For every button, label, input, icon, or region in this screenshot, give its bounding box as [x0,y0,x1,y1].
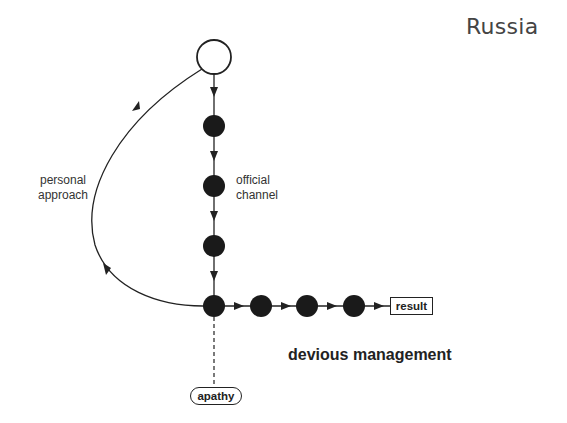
arrow-icon [210,271,218,281]
junction-node [203,295,225,317]
arrow-icon [374,302,384,310]
management-node-2 [296,295,318,317]
official-node-1 [203,115,225,137]
arrow-icon [234,302,244,310]
official-node-2 [203,175,225,197]
management-node-3 [343,295,365,317]
arrow-icon [103,263,111,275]
management-node-1 [250,295,272,317]
start-node [197,40,231,74]
arrow-icon [327,302,337,310]
arrow-icon [210,87,218,97]
apathy-box: apathy [190,387,242,405]
result-box: result [390,297,433,315]
diagram-title: Russia [466,14,539,39]
devious-management-heading: devious management [288,346,452,364]
arrow-icon [210,151,218,161]
diagram-canvas [0,0,567,423]
official-node-3 [203,235,225,257]
official-channel-label: official channel [236,173,288,203]
arrow-icon [132,101,140,111]
arrow-icon [281,302,291,310]
arrow-icon [210,211,218,221]
personal-approach-label: personal approach [28,173,98,203]
